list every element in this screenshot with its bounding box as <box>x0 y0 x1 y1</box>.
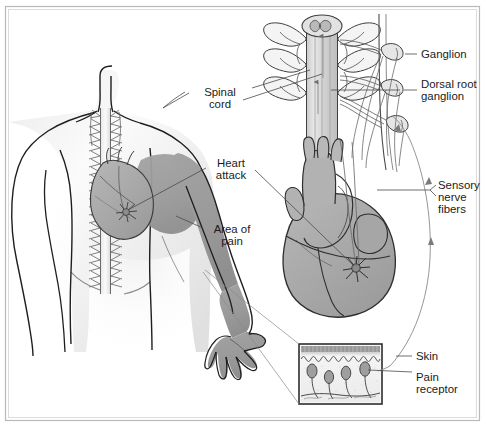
label-heart-attack: Heart attack <box>216 157 247 181</box>
diagram-canvas: Spinal cord Heart attack Area of pain Ga… <box>0 0 486 427</box>
label-sensory-line1: Sensory <box>438 179 480 191</box>
label-area-of-pain-line1: Area of <box>214 223 252 235</box>
label-area-of-pain-line2: pain <box>221 235 243 247</box>
label-skin-line1: Skin <box>416 350 438 362</box>
label-skin: Skin <box>416 350 438 362</box>
referred-pain-diagram: Spinal cord Heart attack Area of pain Ga… <box>0 0 486 427</box>
label-spinal-cord-line2: cord <box>209 98 231 110</box>
central-canal <box>319 25 321 27</box>
label-heart-attack-line2: attack <box>216 169 247 181</box>
label-drg-line2: ganglion <box>421 90 464 102</box>
skin-cross-section <box>299 344 382 404</box>
label-sensory-line3: fibers <box>438 203 466 215</box>
label-spinal-cord: Spinal cord <box>204 86 236 110</box>
label-ganglion: Ganglion <box>421 48 467 60</box>
label-spinal-cord-line1: Spinal <box>204 86 236 98</box>
label-pain-receptor-line1: Pain <box>416 371 439 383</box>
right-atrium <box>354 214 388 253</box>
label-sensory-line2: nerve <box>438 191 467 203</box>
label-pain-receptor-line2: receptor <box>416 383 458 395</box>
label-drg-line1: Dorsal root <box>421 78 478 90</box>
carotid-branch <box>317 137 328 158</box>
brachiocephalic-branch <box>304 137 315 160</box>
epidermis-band <box>301 346 380 352</box>
label-ganglion-line1: Ganglion <box>421 48 467 60</box>
label-heart-attack-line1: Heart <box>217 157 246 169</box>
